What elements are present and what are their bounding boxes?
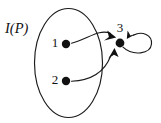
- edge-2-to-3-arrowhead: [108, 48, 118, 58]
- figure-container: 1 2 3 I(P): [0, 0, 161, 123]
- node-dot-1: [62, 40, 70, 48]
- node-label-2: 2: [52, 72, 59, 87]
- graph-diagram-svg: 1 2 3 I(P): [0, 0, 161, 123]
- set-region-ellipse: [35, 9, 103, 118]
- edge-2-to-3: [72, 57, 111, 82]
- node-label-1: 1: [52, 35, 59, 50]
- node-dot-3: [116, 39, 125, 48]
- node-dot-2: [62, 77, 70, 85]
- node-label-3: 3: [117, 20, 124, 35]
- edge-1-to-3: [72, 32, 111, 43]
- set-label-ip: I(P): [4, 20, 29, 37]
